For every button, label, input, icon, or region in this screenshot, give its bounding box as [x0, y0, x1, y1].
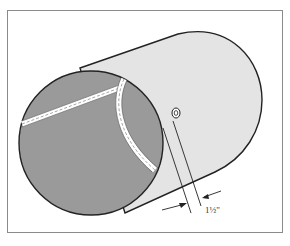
- dimension-label: 1½": [205, 205, 220, 215]
- cylinder-diagram: [0, 0, 290, 246]
- hole-icon: [172, 108, 180, 118]
- cylinder-end-face: [19, 71, 163, 215]
